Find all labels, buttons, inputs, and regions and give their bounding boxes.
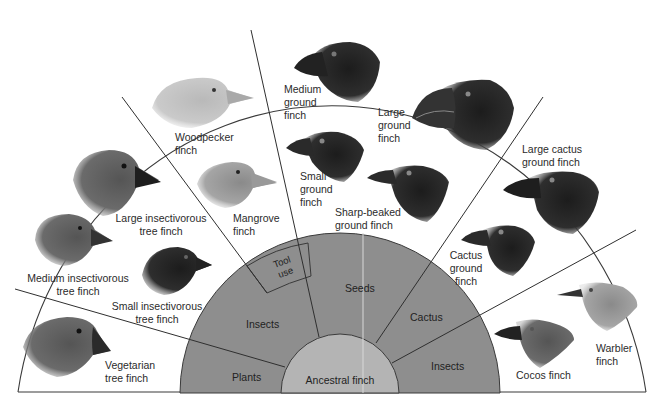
label-seeds: Seeds	[345, 282, 375, 294]
label-medium-ground-finch-3: finch	[284, 109, 306, 121]
label-medium-insectivorous-1: Medium insectivorous	[27, 272, 129, 284]
label-medium-ground-finch-2: ground	[284, 96, 317, 108]
label-large-ground-finch-2: ground	[378, 119, 411, 131]
label-vegetarian-tree-finch-2: tree finch	[105, 372, 148, 384]
label-small-insectivorous-2: tree finch	[135, 313, 178, 325]
label-cactus: Cactus	[410, 311, 443, 323]
label-insects-right: Insects	[431, 360, 464, 372]
label-sharp-beaked-1: Sharp-beaked	[335, 206, 401, 218]
label-woodpecker-finch-2: finch	[175, 144, 197, 156]
cocos-finch-head-icon	[494, 319, 574, 368]
label-woodpecker-finch-1: Woodpecker	[175, 131, 234, 143]
label-cactus-ground-finch-2: ground	[450, 262, 483, 274]
label-large-cactus-ground-finch-2: ground finch	[522, 156, 580, 168]
label-mangrove-finch-2: finch	[233, 225, 255, 237]
warbler-finch-head-icon	[557, 282, 637, 331]
label-vegetarian-tree-finch-1: Vegetarian	[105, 359, 155, 371]
label-mangrove-finch-1: Mangrove	[233, 212, 280, 224]
label-large-insectivorous-2: tree finch	[139, 225, 182, 237]
vegetarian-tree-finch-head-icon	[23, 317, 111, 377]
large-ground-finch-head-icon	[412, 80, 514, 150]
finch-radiation-diagram: Plants Insects Tool use Seeds Cactus Ins…	[0, 0, 663, 410]
label-plants: Plants	[232, 371, 261, 383]
label-sharp-beaked-2: ground finch	[335, 219, 393, 231]
label-ancestral-finch: Ancestral finch	[306, 374, 375, 386]
label-large-ground-finch-1: Large	[378, 106, 405, 118]
label-large-ground-finch-3: finch	[378, 132, 400, 144]
label-cocos-finch: Cocos finch	[516, 369, 571, 381]
label-small-ground-finch-2: ground	[300, 183, 333, 195]
mangrove-finch-head-icon	[197, 162, 277, 208]
label-small-insectivorous-1: Small insectivorous	[112, 300, 202, 312]
label-medium-ground-finch-1: Medium	[284, 83, 322, 95]
label-large-insectivorous-1: Large insectivorous	[115, 212, 206, 224]
large-insectivorous-tree-finch-head-icon	[73, 150, 161, 216]
label-cactus-ground-finch-1: Cactus	[450, 249, 483, 261]
small-insectivorous-tree-finch-head-icon	[142, 247, 212, 295]
large-cactus-ground-finch-head-icon	[503, 172, 599, 234]
label-insects-left: Insects	[246, 318, 279, 330]
label-warbler-finch-2: finch	[596, 355, 618, 367]
label-medium-insectivorous-2: tree finch	[56, 285, 99, 297]
label-large-cactus-ground-finch-1: Large cactus	[522, 143, 582, 155]
label-warbler-finch-1: Warbler	[596, 342, 633, 354]
label-cactus-ground-finch-3: finch	[455, 275, 477, 287]
label-small-ground-finch-1: Small	[300, 170, 326, 182]
label-small-ground-finch-3: finch	[300, 196, 322, 208]
medium-insectivorous-tree-finch-head-icon	[35, 214, 113, 266]
